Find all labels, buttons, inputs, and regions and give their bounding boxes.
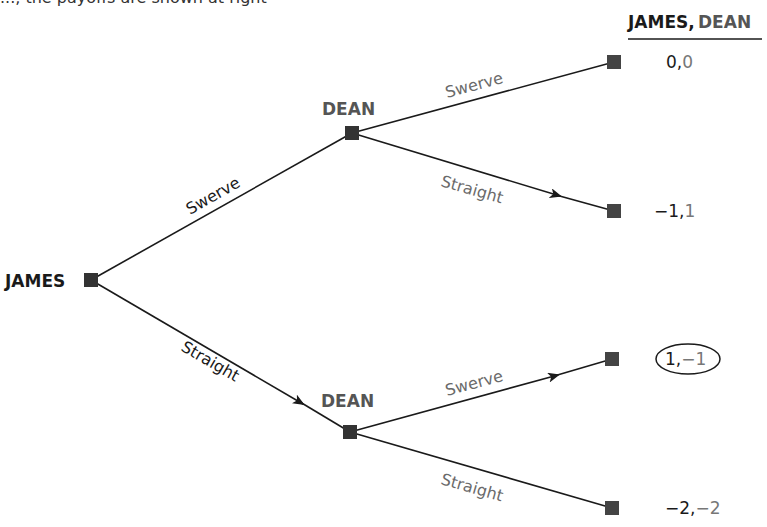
payoff-header-james: JAMES, (627, 12, 695, 32)
game-tree: JAMES, DEAN JAMES DEAN DEAN Swerve Strai… (0, 0, 767, 527)
action-label-dean-lower-swerve: Swerve (443, 366, 505, 400)
branch-dean-upper-straight (556, 195, 614, 211)
node-james (84, 273, 98, 287)
player-label-dean-lower: DEAN (321, 391, 374, 411)
player-label-james: JAMES (4, 271, 65, 291)
payoff-3-james: 1 (665, 349, 676, 369)
payoff-1-dean: 0 (682, 52, 693, 72)
terminal-node-2 (607, 204, 621, 218)
payoff-4-dean: −2 (695, 498, 720, 518)
node-dean-lower (343, 425, 357, 439)
terminal-node-1 (607, 55, 621, 69)
payoff-2-james: −1 (654, 201, 679, 221)
payoff-header-dean: DEAN (698, 12, 751, 32)
node-dean-upper (345, 126, 359, 140)
svg-text:−1,1: −1,1 (654, 201, 695, 221)
payoff-1-james: 0 (666, 52, 677, 72)
action-label-dean-upper-swerve: Swerve (443, 68, 505, 102)
payoff-2-dean: 1 (684, 201, 695, 221)
payoff-4-james: −2 (665, 498, 690, 518)
payoff-1: 0,0 (666, 52, 693, 72)
branch-dean-lower-swerve (554, 359, 612, 376)
payoff-4: −2,−2 (665, 498, 721, 518)
svg-text:1,−1: 1,−1 (665, 349, 706, 369)
svg-text:0,0: 0,0 (666, 52, 693, 72)
player-label-dean-upper: DEAN (322, 99, 375, 119)
payoff-3-dean: −1 (681, 349, 706, 369)
branch-james-swerve (91, 133, 352, 280)
terminal-node-3 (605, 352, 619, 366)
action-label-james-straight: Straight (178, 337, 243, 385)
payoff-header: JAMES, DEAN (627, 12, 762, 39)
terminal-node-4 (605, 501, 619, 515)
payoff-3: 1,−1 (656, 344, 720, 374)
svg-text:−2,−2: −2,−2 (665, 498, 721, 518)
payoff-2: −1,1 (654, 201, 695, 221)
